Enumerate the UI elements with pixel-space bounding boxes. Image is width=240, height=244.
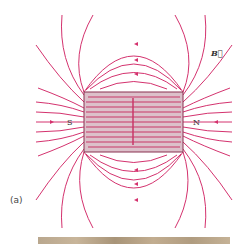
magnetic-field-diagram: S N B⃗ [0,0,240,244]
field-vector-label: B⃗ [210,48,223,58]
figure-caption: (a) [10,195,23,205]
wood-strip [38,237,230,244]
north-pole-label: N [193,118,200,127]
south-pole-label: S [67,118,72,127]
